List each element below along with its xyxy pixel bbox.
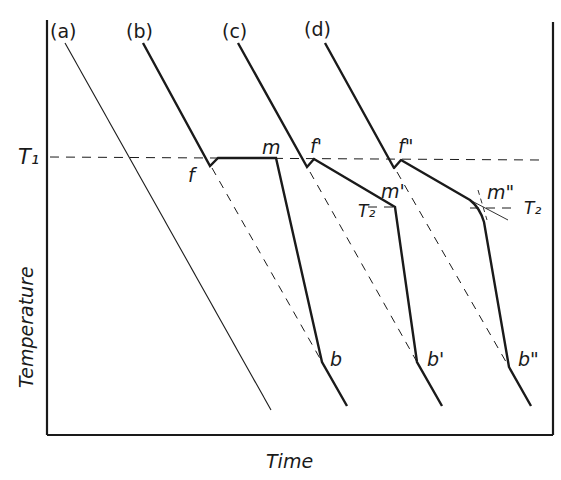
y-axis-title: Temperature bbox=[17, 266, 36, 388]
curve-label-b: (b) bbox=[126, 22, 153, 41]
curve-label-c: (c) bbox=[222, 22, 247, 41]
curve-a bbox=[65, 43, 271, 410]
point-label-f1: f' bbox=[310, 137, 322, 156]
reference-lines bbox=[50, 157, 540, 208]
point-label-b: b bbox=[330, 350, 342, 369]
t1-label: T₁ bbox=[18, 147, 39, 168]
point-label-f2: f" bbox=[398, 137, 413, 156]
cooling-curves-diagram bbox=[0, 0, 561, 480]
point-label-m2: m" bbox=[487, 183, 514, 202]
point-label-m1: m' bbox=[381, 182, 405, 201]
curve-b-extrapolation bbox=[212, 168, 322, 362]
curve-d-tangent-2 bbox=[470, 200, 508, 220]
point-label-b2: b" bbox=[518, 350, 539, 369]
point-label-f: f bbox=[188, 166, 195, 185]
t2-label-left: T₂ bbox=[358, 203, 375, 220]
axes bbox=[47, 20, 553, 435]
x-axis-title: Time bbox=[266, 452, 313, 471]
t2-label-right: T₂ bbox=[524, 200, 541, 217]
point-label-b1: b' bbox=[427, 350, 444, 369]
point-label-m: m bbox=[262, 138, 281, 157]
t1-line bbox=[50, 157, 540, 160]
curve-label-d: (d) bbox=[304, 20, 331, 39]
curve-label-a: (a) bbox=[50, 22, 76, 41]
